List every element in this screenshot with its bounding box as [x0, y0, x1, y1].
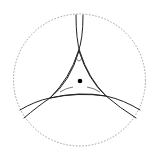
arc-group	[20, 15, 140, 118]
arc-left-upper	[20, 94, 106, 110]
geometry-diagram	[0, 0, 156, 156]
arc-right-lower	[79, 51, 136, 118]
center-point	[78, 79, 83, 84]
inner-tick-arcs	[60, 58, 100, 92]
tick-arc-left	[60, 87, 73, 92]
arc-top-right	[50, 15, 83, 98]
arc-left-lower	[24, 51, 79, 118]
arc-right-upper	[50, 94, 140, 110]
